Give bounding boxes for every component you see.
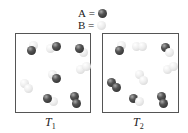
atom-a-icon [159, 99, 168, 108]
legend-a-equals: = [89, 8, 95, 19]
atom-a-icon [115, 46, 124, 55]
label-t2-sub: 2 [140, 122, 144, 131]
legend-b-symbol: B [78, 20, 85, 31]
label-t1-sub: 1 [52, 122, 56, 131]
legend-b: B = [78, 20, 106, 31]
label-t2-text: T [133, 115, 140, 129]
atom-a-icon [112, 83, 121, 92]
atom-b-icon [169, 62, 178, 71]
box-t2 [102, 33, 179, 113]
legend-a: A = [78, 8, 107, 19]
atom-b-icon [97, 21, 106, 30]
atom-a-icon [27, 46, 36, 55]
atom-b-icon [135, 97, 144, 106]
legend-b-equals: = [88, 20, 94, 31]
box-t1 [15, 33, 91, 113]
atom-a-icon [75, 44, 84, 53]
atom-a-icon [52, 42, 61, 51]
atom-b-icon [138, 42, 147, 51]
atom-a-icon [52, 74, 61, 83]
label-t1: T1 [45, 115, 56, 131]
label-t1-text: T [45, 115, 52, 129]
atom-b-icon [24, 84, 33, 93]
label-t2: T2 [133, 115, 144, 131]
atom-b-icon [165, 48, 174, 57]
atom-a-icon [43, 94, 52, 103]
atom-a-icon [98, 9, 107, 18]
atom-a-icon [72, 99, 81, 108]
atom-b-icon [139, 76, 148, 85]
legend-a-symbol: A [78, 8, 86, 19]
atom-b-icon [82, 62, 91, 71]
